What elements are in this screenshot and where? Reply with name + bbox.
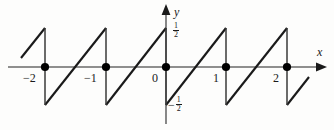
fraction-stack: 1 2 — [173, 22, 179, 39]
x-tick-label-0: 0 — [152, 72, 158, 84]
y-tick-minus-one-half-numerator: 1 — [176, 96, 182, 104]
x-tick-label-minus-1: −1 — [84, 72, 97, 84]
dot-x-2 — [283, 63, 291, 71]
dot-x-minus-2 — [41, 63, 49, 71]
x-tick-label-2: 2 — [273, 72, 279, 84]
x-axis-label: x — [317, 46, 322, 58]
y-tick-one-half-numerator: 1 — [173, 22, 179, 30]
sawtooth-wave-figure: −2 −1 0 1 2 y x 1 2 − 1 2 — [0, 0, 334, 130]
y-tick-one-half-denominator: 2 — [173, 31, 179, 39]
y-tick-label-minus-one-half: − 1 2 — [168, 96, 182, 113]
x-tick-label-1: 1 — [213, 72, 219, 84]
fraction-stack: 1 2 — [176, 96, 182, 113]
dot-x-0 — [162, 63, 170, 71]
dot-x-minus-1 — [102, 63, 110, 71]
dot-x-1 — [222, 63, 230, 71]
y-tick-minus-one-half-denominator: 2 — [176, 105, 182, 113]
y-axis-label: y — [174, 6, 179, 18]
x-tick-label-minus-2: −2 — [23, 72, 36, 84]
y-tick-minus-one-half-sign: − — [168, 99, 175, 111]
y-tick-label-one-half: 1 2 — [172, 22, 179, 39]
plot-canvas — [0, 0, 334, 130]
